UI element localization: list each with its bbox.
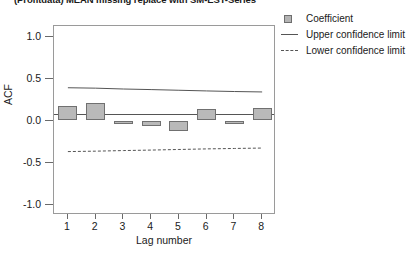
acf-chart-figure: (Profitdata) MEAN missing replace with S…	[0, 0, 412, 254]
y-tick-label: 0.5	[26, 72, 41, 84]
legend-item-lower-confidence: Lower confidence limit	[281, 43, 409, 58]
x-tick-mark	[95, 214, 96, 219]
legend-label-upper-confidence: Upper confidence limit	[306, 29, 405, 40]
x-tick-label: 6	[198, 220, 214, 232]
lower-confidence-line	[68, 148, 262, 152]
legend-label-coefficient: Coefficient	[306, 13, 353, 24]
plot-area	[53, 25, 275, 214]
coefficient-swatch-icon	[281, 13, 301, 25]
y-tick-mark	[45, 36, 53, 37]
x-tick-mark	[122, 214, 123, 219]
y-tick-label: -1.0	[23, 198, 41, 210]
x-tick-mark	[150, 214, 151, 219]
y-tick-label: 0.0	[26, 114, 41, 126]
upper-confidence-line	[68, 88, 262, 92]
x-tick-mark	[178, 214, 179, 219]
x-tick-label: 8	[253, 220, 269, 232]
legend-item-upper-confidence: Upper confidence limit	[281, 27, 409, 42]
x-tick-label: 3	[114, 220, 130, 232]
x-tick-label: 4	[142, 220, 158, 232]
y-tick-mark	[45, 120, 53, 121]
chart-title: (Profitdata) MEAN missing replace with S…	[14, 0, 344, 6]
legend-item-coefficient: Coefficient	[281, 11, 409, 26]
x-tick-label: 7	[225, 220, 241, 232]
legend-label-lower-confidence: Lower confidence limit	[306, 45, 405, 56]
x-tick-label: 1	[59, 220, 75, 232]
x-tick-mark	[233, 214, 234, 219]
chart-legend: Coefficient Upper confidence limit Lower…	[281, 11, 409, 59]
solid-line-icon	[281, 29, 301, 41]
dashed-line-icon	[281, 45, 301, 57]
x-tick-mark	[67, 214, 68, 219]
x-tick-label: 5	[170, 220, 186, 232]
y-tick-label: 1.0	[26, 30, 41, 42]
x-tick-mark	[206, 214, 207, 219]
x-tick-mark	[261, 214, 262, 219]
x-tick-label: 2	[87, 220, 103, 232]
confidence-limit-lines	[54, 26, 276, 215]
y-axis-title: ACF	[2, 84, 14, 105]
y-tick-mark	[45, 162, 53, 163]
y-tick-mark	[45, 204, 53, 205]
y-tick-label: -0.5	[23, 156, 41, 168]
y-tick-mark	[45, 78, 53, 79]
x-axis-title: Lag number	[53, 234, 275, 246]
